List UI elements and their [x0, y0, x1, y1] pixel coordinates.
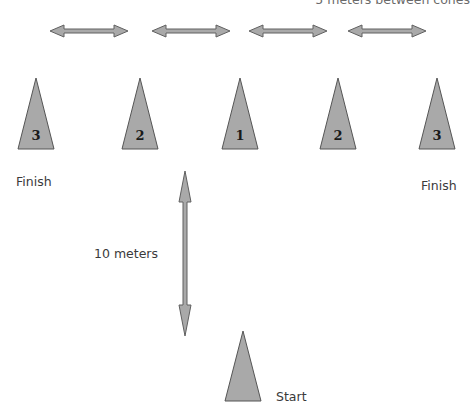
drill-diagram: 5 meters between cones 3 2 1 2 3 Finish — [0, 0, 473, 420]
distance-label: 10 meters — [94, 246, 158, 261]
cone-number: 2 — [135, 128, 144, 143]
cone-number: 3 — [432, 128, 441, 143]
cone-number: 1 — [235, 128, 244, 143]
double-arrow-1 — [50, 25, 128, 37]
start-cone — [225, 331, 261, 401]
double-arrow-4 — [348, 25, 426, 37]
cone-left-finish: 3 — [18, 78, 54, 149]
cone-row: 3 2 1 2 3 — [18, 78, 455, 149]
cone-right-2: 2 — [320, 78, 356, 149]
cone-right-finish: 3 — [419, 78, 455, 149]
double-arrow-2 — [152, 25, 230, 37]
cone-left-2: 2 — [122, 78, 158, 149]
spacing-arrows — [50, 25, 426, 37]
start-label: Start — [276, 389, 307, 404]
cone-icon — [225, 331, 261, 401]
vertical-double-arrow — [179, 171, 191, 336]
cone-number: 2 — [333, 128, 342, 143]
double-arrow-3 — [249, 25, 327, 37]
cone-center-1: 1 — [222, 78, 258, 149]
top-caption: 5 meters between cones — [315, 0, 470, 7]
cone-number: 3 — [31, 128, 40, 143]
finish-label-right: Finish — [421, 178, 457, 193]
finish-label-left: Finish — [16, 174, 52, 189]
